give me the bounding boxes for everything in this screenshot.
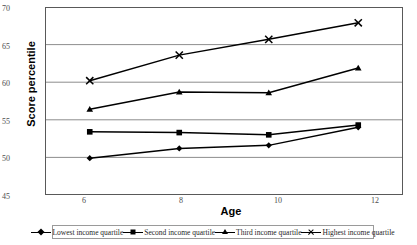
legend-item-0[interactable]: Lowest income quartile (31, 227, 123, 237)
data-point-1-1 (176, 130, 182, 136)
x-tick-label-3: 12 (355, 196, 395, 205)
legend-item-2[interactable]: Third income quartile (215, 227, 301, 237)
series-line-3 (90, 23, 359, 81)
data-point-0-2 (266, 142, 272, 148)
y-tick-label-3: 60 (0, 79, 10, 88)
y-tick-label-0: 45 (0, 192, 10, 201)
data-point-1-0 (87, 129, 93, 135)
square-marker-icon (123, 227, 143, 237)
data-point-0-0 (87, 155, 93, 161)
chart-legend: Lowest income quartile Second income qua… (52, 225, 374, 239)
data-point-2-3 (355, 65, 362, 71)
line-chart: Score percentile 45 50 55 60 65 70 6 8 1… (0, 0, 417, 245)
legend-item-3[interactable]: Highest income quartile (301, 227, 394, 237)
x-tick-label-0: 6 (64, 196, 104, 205)
y-tick-label-4: 65 (0, 42, 10, 51)
data-point-1-2 (266, 132, 272, 138)
y-axis-title: Score percentile (25, 9, 37, 159)
legend-label-3: Highest income quartile (322, 228, 394, 237)
cross-marker-icon (301, 227, 321, 237)
legend-item-1[interactable]: Second income quartile (123, 227, 215, 237)
y-tick-label-1: 50 (0, 154, 10, 163)
plot-area (45, 7, 403, 195)
series-line-1 (90, 125, 359, 135)
triangle-marker-icon (215, 227, 235, 237)
data-point-0-1 (176, 145, 182, 151)
plot-border (46, 8, 403, 195)
y-tick-label-5: 70 (0, 4, 10, 13)
x-tick-label-2: 10 (258, 196, 298, 205)
x-tick-label-1: 8 (161, 196, 201, 205)
legend-label-2: Third income quartile (236, 228, 301, 237)
legend-label-1: Second income quartile (144, 228, 215, 237)
legend-label-0: Lowest income quartile (52, 228, 123, 237)
series-line-2 (90, 68, 359, 109)
x-axis-title: Age (45, 205, 417, 217)
y-tick-label-2: 55 (0, 117, 10, 126)
data-point-1-3 (355, 122, 361, 128)
diamond-marker-icon (31, 227, 51, 237)
